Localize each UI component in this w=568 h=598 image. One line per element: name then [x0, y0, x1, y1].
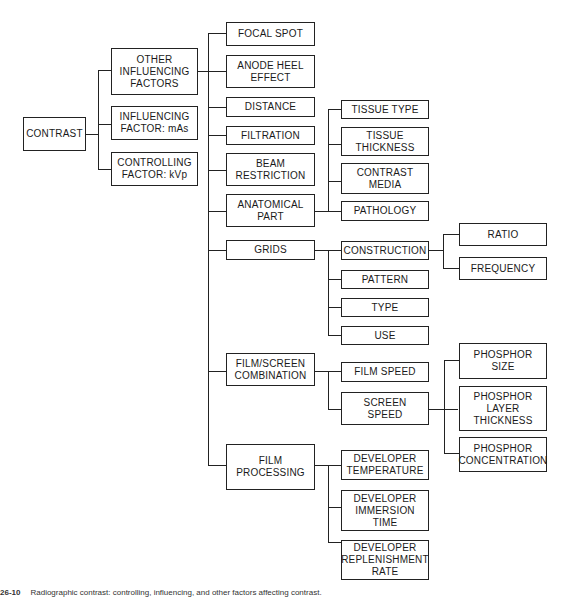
figure-caption: 26-10Radiographic contrast: controlling,…: [0, 588, 322, 597]
connector: [328, 109, 329, 212]
node-tissue-thickness: TISSUE THICKNESS: [341, 127, 429, 156]
connector: [208, 250, 226, 251]
node-frequency: FREQUENCY: [459, 257, 547, 280]
connector: [444, 360, 460, 361]
node-type: TYPE: [341, 298, 429, 317]
node-phosphor-layer-thickness: PHOSPHOR LAYER THICKNESS: [459, 386, 547, 431]
node-focal-spot: FOCAL SPOT: [226, 22, 315, 46]
connector: [428, 409, 458, 410]
connector: [328, 372, 329, 410]
node-developer-temperature: DEVELOPER TEMPERATURE: [341, 450, 429, 480]
node-film-processing: FILM PROCESSING: [226, 444, 315, 490]
connector: [328, 409, 342, 410]
connector: [98, 70, 99, 170]
connector: [208, 170, 226, 171]
connector: [443, 234, 460, 235]
node-pattern: PATTERN: [341, 270, 429, 289]
connector: [328, 144, 342, 145]
connector: [328, 181, 342, 182]
connector: [444, 360, 445, 454]
connector: [328, 542, 342, 543]
connector: [328, 507, 342, 508]
node-developer-replenishment-rate: DEVELOPER REPLENISHMENT RATE: [341, 540, 429, 580]
connector: [443, 234, 444, 269]
connector: [208, 465, 226, 466]
connector: [328, 335, 342, 336]
connector: [98, 169, 112, 170]
connector: [208, 33, 226, 34]
connector: [328, 465, 329, 543]
node-ratio: RATIO: [459, 223, 547, 246]
node-distance: DISTANCE: [226, 97, 315, 117]
node-use: USE: [341, 326, 429, 345]
node-other-influencing-factors: OTHER INFLUENCING FACTORS: [111, 48, 198, 95]
node-contrast-media: CONTRAST MEDIA: [341, 163, 429, 194]
connector: [208, 211, 226, 212]
connector: [328, 250, 329, 336]
connector: [98, 70, 112, 71]
node-pathology: PATHOLOGY: [341, 201, 429, 221]
node-influencing-factor-mas: INFLUENCING FACTOR: mAs: [111, 106, 198, 140]
node-tissue-type: TISSUE TYPE: [341, 100, 429, 119]
node-controlling-factor-kvp: CONTROLLING FACTOR: kVp: [111, 152, 198, 186]
node-construction: CONSTRUCTION: [341, 241, 429, 260]
node-contrast: CONTRAST: [23, 117, 86, 151]
node-grids: GRIDS: [226, 240, 315, 260]
connector: [328, 307, 342, 308]
node-anatomical-part: ANATOMICAL PART: [226, 194, 315, 227]
node-screen-speed: SCREEN SPEED: [341, 392, 429, 425]
connector: [198, 71, 226, 72]
connector: [328, 109, 342, 110]
connector: [98, 124, 112, 125]
connector: [208, 371, 226, 372]
node-beam-restriction: BEAM RESTRICTION: [226, 153, 315, 186]
node-phosphor-concentration: PHOSPHOR CONCENTRATION: [459, 437, 547, 472]
node-phosphor-size: PHOSPHOR SIZE: [459, 343, 547, 379]
connector: [328, 279, 342, 280]
caption-text: Radiographic contrast: controlling, infl…: [30, 588, 321, 597]
node-developer-immersion-time: DEVELOPER IMMERSION TIME: [341, 490, 429, 531]
node-filtration: FILTRATION: [226, 126, 315, 145]
figure-number: 26-10: [0, 588, 20, 597]
node-film-speed: FILM SPEED: [341, 362, 429, 382]
connector: [85, 134, 99, 135]
node-film-screen-combination: FILM/SCREEN COMBINATION: [226, 353, 315, 386]
node-anode-heel-effect: ANODE HEEL EFFECT: [226, 55, 315, 88]
connector: [428, 250, 444, 251]
connector: [208, 33, 209, 465]
connector: [443, 268, 460, 269]
connector: [208, 107, 226, 108]
connector: [208, 135, 226, 136]
